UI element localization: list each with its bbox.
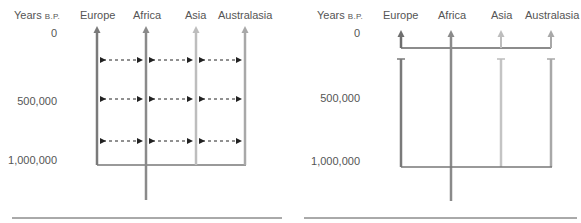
left-panel-multiregional: Years B.P. 0 500,000 1,000,000 Europe Af… (0, 0, 290, 223)
europe-arrowhead-icon (94, 26, 101, 33)
asia-arrowhead-icon (193, 26, 200, 33)
right-diagram-lines (290, 0, 581, 223)
left-diagram-lines (0, 0, 290, 223)
australasia-arrowhead-icon (548, 30, 555, 37)
africa-arrowhead-icon (448, 30, 455, 37)
gene-flow-arrows (103, 60, 239, 141)
australasia-arrowhead-icon (242, 26, 249, 33)
right-panel-out-of-africa: Years B.P. 0 500,000 1,000,000 Europe Af… (290, 0, 581, 223)
europe-arrowhead-icon (398, 30, 405, 37)
africa-arrowhead-icon (143, 26, 150, 33)
asia-arrowhead-icon (498, 30, 505, 37)
